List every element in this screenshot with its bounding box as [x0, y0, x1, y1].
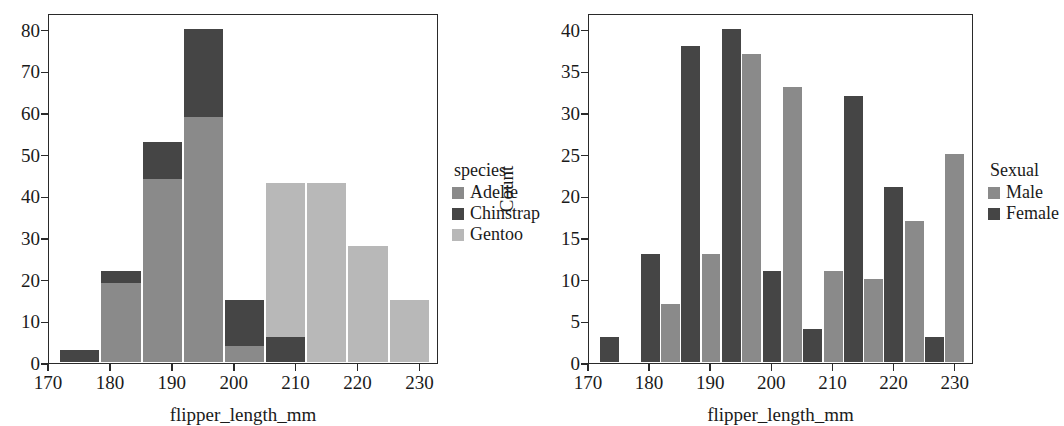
- x-tick: [419, 364, 421, 371]
- y-tick-label: 25: [536, 146, 580, 165]
- x-tick-label: 220: [864, 373, 924, 392]
- grouped-bar-male: [783, 87, 802, 362]
- legend-swatch-adelie: [452, 187, 464, 199]
- stacked-bar: [225, 16, 264, 363]
- bar-segment-chinstrap: [225, 300, 264, 346]
- y-tick-label: 30: [0, 229, 40, 248]
- y-tick: [581, 30, 588, 32]
- y-tick: [41, 280, 48, 282]
- x-tick: [233, 364, 235, 371]
- x-tick-label: 220: [328, 373, 388, 392]
- grouped-bar-male: [702, 254, 721, 362]
- y-tick-label: 0: [536, 354, 580, 373]
- y-tick: [581, 238, 588, 240]
- y-tick-label: 30: [536, 104, 580, 123]
- legend-item[interactable]: Female: [988, 203, 1059, 224]
- grouped-bar-male: [905, 221, 924, 363]
- x-tick-label: 230: [389, 373, 449, 392]
- bar-segment-gentoo: [348, 246, 387, 363]
- bar-segment-adelie: [184, 117, 223, 363]
- bar-segment-gentoo: [266, 183, 305, 337]
- chart-panel-species: 01020304050607080170180190200210220230fl…: [0, 0, 540, 412]
- x-tick: [47, 364, 49, 371]
- x-tick-label: 230: [925, 373, 985, 392]
- grouped-bar-male: [742, 54, 761, 362]
- stacked-bar: [101, 16, 140, 363]
- stacked-bar: [184, 16, 223, 363]
- y-tick: [41, 72, 48, 74]
- x-tick: [709, 364, 711, 371]
- x-tick-label: 180: [619, 373, 679, 392]
- x-tick-label: 190: [142, 373, 202, 392]
- y-tick: [41, 197, 48, 199]
- grouped-bar-female: [884, 187, 903, 362]
- grouped-bar-female: [600, 337, 619, 362]
- y-tick-label: 10: [0, 312, 40, 331]
- x-tick-label: 170: [18, 373, 78, 392]
- y-tick-label: 10: [536, 271, 580, 290]
- bar-segment-adelie: [101, 283, 140, 362]
- grouped-bar-female: [763, 271, 782, 363]
- legend-swatch-male: [988, 187, 1000, 199]
- legend-item[interactable]: Gentoo: [452, 224, 540, 245]
- x-tick-label: 210: [266, 373, 326, 392]
- y-tick-label: 50: [0, 146, 40, 165]
- x-tick: [648, 364, 650, 371]
- x-tick: [171, 364, 173, 371]
- bar-segment-chinstrap: [184, 29, 223, 117]
- y-tick: [41, 113, 48, 115]
- y-tick-label: 60: [0, 104, 40, 123]
- plot-area: [50, 16, 437, 363]
- grouped-bar-male: [864, 279, 883, 362]
- bar-segment-adelie: [225, 346, 264, 363]
- legend-title: Sexual: [990, 160, 1059, 181]
- legend-label: Gentoo: [470, 224, 523, 245]
- x-tick: [893, 364, 895, 371]
- grouped-bar-female: [803, 329, 822, 362]
- grouped-bar-male: [661, 304, 680, 362]
- x-tick-label: 190: [680, 373, 740, 392]
- stacked-bar: [143, 16, 182, 363]
- bar-segment-adelie: [143, 179, 182, 362]
- legend-swatch-gentoo: [452, 229, 464, 241]
- y-axis-title: Count: [496, 166, 518, 212]
- legend-label: Male: [1006, 182, 1043, 203]
- y-tick-label: 15: [536, 229, 580, 248]
- grouped-bar-female: [722, 29, 741, 362]
- x-tick-label: 200: [741, 373, 801, 392]
- y-tick: [41, 322, 48, 324]
- chart-panel-sex: 0510152025303540170180190200210220230fli…: [540, 0, 1064, 412]
- legend-item[interactable]: Male: [988, 182, 1059, 203]
- y-tick: [581, 155, 588, 157]
- bar-segment-chinstrap: [143, 142, 182, 180]
- chart-legend: SexualMaleFemale: [988, 160, 1059, 224]
- x-tick-label: 170: [558, 373, 618, 392]
- y-tick: [581, 280, 588, 282]
- stacked-bar: [390, 16, 429, 363]
- bar-segment-chinstrap: [60, 350, 99, 363]
- x-tick: [832, 364, 834, 371]
- grouped-bar-female: [681, 46, 700, 363]
- y-tick: [41, 155, 48, 157]
- x-axis-title: flipper_length_mm: [48, 404, 438, 426]
- y-tick-label: 80: [0, 21, 40, 40]
- plot-area: [590, 16, 972, 363]
- y-tick-label: 5: [536, 312, 580, 331]
- stacked-bar: [266, 16, 305, 363]
- grouped-bar-female: [925, 337, 944, 362]
- x-tick-label: 210: [802, 373, 862, 392]
- y-tick-label: 20: [0, 271, 40, 290]
- y-tick-label: 0: [0, 354, 40, 373]
- bar-segment-gentoo: [390, 300, 429, 363]
- x-tick: [109, 364, 111, 371]
- stacked-bar: [60, 16, 99, 363]
- y-tick: [581, 113, 588, 115]
- grouped-bar-female: [641, 254, 660, 362]
- bar-segment-gentoo: [307, 183, 346, 362]
- y-tick-label: 35: [536, 62, 580, 81]
- x-tick: [954, 364, 956, 371]
- y-tick-label: 20: [536, 187, 580, 206]
- y-tick: [41, 30, 48, 32]
- grouped-bar-male: [945, 154, 964, 362]
- y-tick: [41, 238, 48, 240]
